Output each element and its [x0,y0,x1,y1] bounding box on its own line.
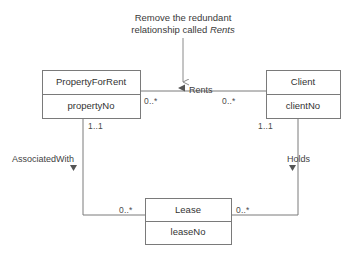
diagram-lines-layer [0,0,348,254]
association-line-associatedwith [83,119,145,215]
association-line-holds [232,119,298,215]
association-direction-triangle-holds [289,165,296,171]
association-direction-triangle-rents [178,85,185,92]
uml-class-diagram-canvas: Remove the redundant relationship called… [0,0,348,254]
association-direction-triangle-associatedwith [70,165,77,171]
